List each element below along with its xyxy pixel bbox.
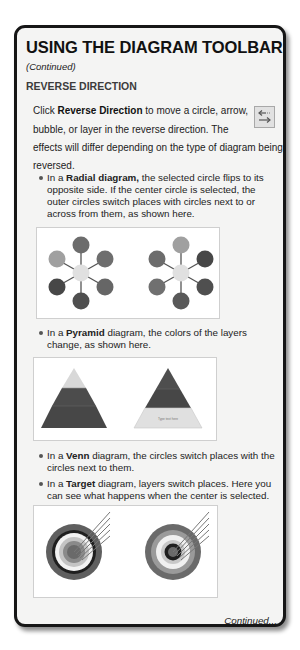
- bullet-text: In a: [47, 327, 66, 338]
- reverse-direction-term: Reverse Direction: [57, 105, 142, 116]
- venn-term: Venn: [66, 450, 89, 461]
- intro-line-3: effects will differ depending on the typ…: [33, 142, 283, 153]
- bullet-icon: [39, 482, 43, 486]
- bullet-text: diagram, the circles switch places with …: [90, 450, 275, 461]
- intro-text: to move a circle, arrow,: [143, 105, 249, 116]
- bullet-text: outer circles switch places with circles…: [47, 196, 264, 208]
- pyramid-after: Type text here: [134, 368, 202, 428]
- pyramid-before: [41, 368, 107, 428]
- bullet-text: opposite side. If the center circle is s…: [47, 184, 264, 196]
- continued-footer: Continued...: [224, 615, 277, 626]
- bullet-text: across from them, as shown here.: [47, 208, 264, 220]
- intro-text: Click: [33, 105, 57, 116]
- bullet-text: change, as shown here.: [47, 339, 247, 351]
- target-before: [46, 512, 110, 580]
- section-heading: REVERSE DIRECTION: [26, 80, 137, 92]
- continued-subtitle: (Continued): [26, 61, 76, 72]
- target-figure: [33, 505, 218, 598]
- pyramid-figure: Type text here: [33, 357, 217, 441]
- intro-line-1: Click Reverse Direction to move a circle…: [33, 105, 248, 116]
- radial-before: [49, 237, 114, 310]
- bullet-pyramid: In a Pyramid diagram, the colors of the …: [47, 327, 247, 351]
- bullet-icon: [39, 331, 43, 335]
- target-term: Target: [66, 478, 95, 489]
- bullet-icon: [39, 454, 43, 458]
- radial-after: [149, 237, 214, 310]
- intro-line-4: reversed.: [33, 160, 75, 171]
- pyramid-term: Pyramid: [66, 327, 105, 338]
- bullet-text: In a: [47, 172, 66, 183]
- bullet-icon: [39, 176, 43, 180]
- radial-term: Radial diagram,: [66, 172, 139, 183]
- radial-figure: [36, 227, 220, 319]
- pyramid-layer-label: Type text here: [158, 417, 178, 421]
- bullet-text: In a: [47, 450, 66, 461]
- bullet-text: diagram, the colors of the layers: [105, 327, 247, 338]
- bullet-target: In a Target diagram, layers switch place…: [47, 478, 271, 502]
- bullet-venn: In a Venn diagram, the circles switch pl…: [47, 450, 275, 474]
- bullet-text: the selected circle flips to its: [139, 172, 264, 183]
- bullet-radial: In a Radial diagram, the selected circle…: [47, 172, 264, 220]
- reverse-direction-icon: [254, 106, 275, 128]
- target-after: [145, 512, 209, 580]
- bullet-text: diagram, layers switch places. Here you: [95, 478, 271, 489]
- bullet-text: can see what happens when the center is …: [47, 490, 271, 502]
- intro-line-2: bubble, or layer in the reverse directio…: [33, 124, 228, 135]
- help-card: USING THE DIAGRAM TOOLBAR (Continued) RE…: [14, 25, 286, 627]
- page-title: USING THE DIAGRAM TOOLBAR: [26, 38, 283, 57]
- bullet-text: circles next to them.: [47, 462, 275, 474]
- bullet-text: In a: [47, 478, 66, 489]
